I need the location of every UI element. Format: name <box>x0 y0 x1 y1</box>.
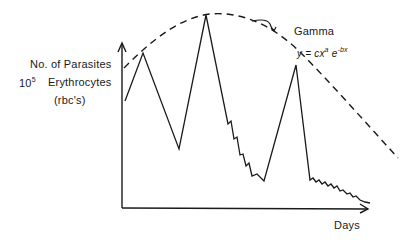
parasitemia-line <box>125 15 370 203</box>
scale-base: 10 <box>19 77 32 89</box>
eq-base: y = cx <box>297 48 325 59</box>
gamma-parasitemia-diagram: No. of Parasites 105 Erythrocytes (rbc's… <box>0 0 406 240</box>
axes <box>118 43 368 213</box>
gamma-label: Gamma <box>294 25 334 37</box>
x-axis-label: Days <box>334 219 360 231</box>
y-axis-label-line1: No. of Parasites <box>30 58 111 70</box>
diagram-canvas <box>0 0 406 240</box>
eq-exp-bx: -bx <box>337 46 347 53</box>
x-axis <box>122 208 368 209</box>
y-axis-label-scale: 105 <box>19 76 36 89</box>
scale-exponent: 5 <box>32 76 36 83</box>
gamma-curve <box>124 14 398 158</box>
gamma-equation: y = cxa e-bx <box>297 46 348 59</box>
y-axis-label-line3: (rbc's) <box>54 94 86 106</box>
y-axis-label-line2: Erythrocytes <box>48 76 112 88</box>
